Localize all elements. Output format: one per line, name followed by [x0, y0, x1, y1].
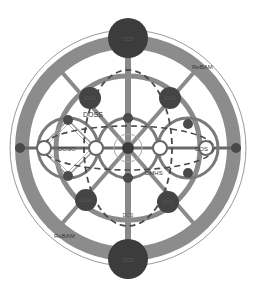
node-center-bottom	[123, 173, 133, 183]
label-doso: DOSO	[58, 146, 76, 152]
node-right-top	[183, 119, 193, 129]
label-dmhs: DMHS	[145, 170, 163, 176]
label-ccs-top: CCS	[123, 36, 134, 42]
node-right-bottom	[183, 168, 193, 178]
label-dos-right: DOS	[195, 146, 208, 152]
network-diagram: CCS CCS CCU CCU CCU CCU ReBAM ReBAM DOSS…	[0, 0, 255, 289]
node-far-right	[231, 143, 241, 153]
left-inner-port-circle	[89, 141, 103, 155]
label-ccu-lower-left: CCU	[81, 197, 92, 203]
node-center-top	[123, 113, 133, 123]
label-ccu-upper-left: CCU	[85, 95, 96, 101]
node-left-top	[63, 115, 73, 125]
node-far-left	[15, 143, 25, 153]
label-bottom-center: DCS	[123, 212, 134, 218]
label-rebam-top-right: ReBAM	[192, 64, 213, 70]
label-ccu-lower-right: CCU	[163, 199, 174, 205]
label-ccs-bottom: CCS	[123, 257, 134, 263]
left-port-circle	[37, 141, 51, 155]
label-rebam-bottom-left: ReBAM	[54, 233, 75, 239]
label-doss: DOSS	[83, 111, 103, 118]
right-inner-port-circle	[153, 141, 167, 155]
diagram-canvas: CCS CCS CCU CCU CCU CCU ReBAM ReBAM DOSS…	[0, 0, 255, 289]
node-center	[122, 142, 134, 154]
node-left-bottom	[63, 171, 73, 181]
label-ccu-upper-right: CCU	[165, 95, 176, 101]
